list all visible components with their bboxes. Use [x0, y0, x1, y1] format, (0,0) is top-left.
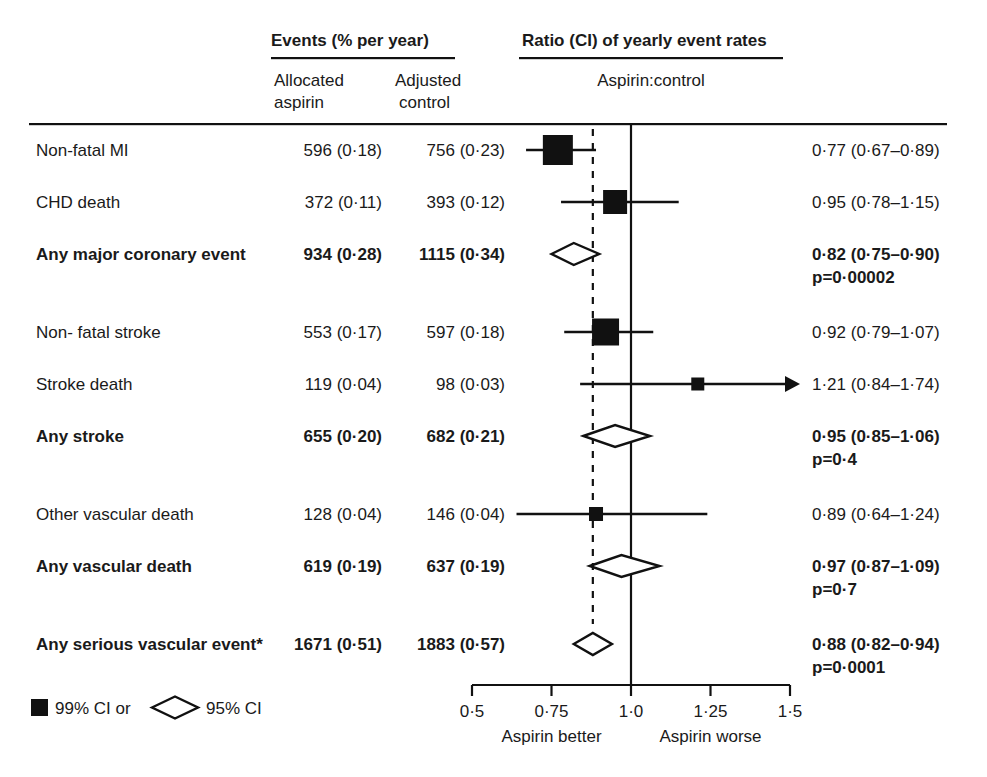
axis-label-left: Aspirin better [501, 727, 601, 746]
row-aspirin-value: 1671 (0·51) [294, 635, 382, 654]
ratio-subheader: Aspirin:control [597, 71, 705, 90]
row-pvalue: p=0·7 [812, 580, 857, 599]
row-ratio-value: 0·88 (0·82–0·94) [812, 635, 940, 654]
row-ratio-value: 0·89 (0·64–1·24) [812, 505, 940, 524]
row-ratio-value: 0·77 (0·67–0·89) [812, 141, 940, 160]
row-control-value: 756 (0·23) [427, 141, 505, 160]
col-control-header-2: control [399, 93, 450, 112]
row-label: Any vascular death [36, 557, 192, 576]
row-label: Stroke death [36, 375, 132, 394]
point-estimate-diamond [574, 633, 612, 655]
row-label: Any major coronary event [36, 245, 246, 264]
row-label: CHD death [36, 193, 120, 212]
axis-tick-label: 1·5 [778, 702, 803, 721]
row-label: Other vascular death [36, 505, 194, 524]
events-header: Events (% per year) [271, 31, 429, 50]
row-pvalue: p=0·00002 [812, 268, 895, 287]
axis-tick-label: 1·25 [693, 702, 727, 721]
axis-tick-label: 0·5 [460, 702, 485, 721]
header-divider [29, 123, 947, 125]
legend-diamond-icon [152, 697, 198, 719]
row-label: Any stroke [36, 427, 124, 446]
row-control-value: 1115 (0·34) [419, 245, 505, 264]
axis-tick-label: 0·75 [534, 702, 568, 721]
point-estimate-square [603, 190, 627, 214]
row-ratio-value: 0·95 (0·85–1·06) [812, 427, 940, 446]
row-ratio-value: 0·82 (0·75–0·90) [812, 245, 940, 264]
row-label: Any serious vascular event* [36, 635, 263, 654]
axis-label-right: Aspirin worse [659, 727, 761, 746]
row-ratio-value: 0·92 (0·79–1·07) [812, 323, 940, 342]
row-aspirin-value: 596 (0·18) [304, 141, 382, 160]
point-estimate-diamond [590, 555, 660, 577]
row-ratio-value: 1·21 (0·84–1·74) [812, 375, 940, 394]
row-aspirin-value: 119 (0·04) [305, 375, 382, 394]
row-aspirin-value: 372 (0·11) [305, 193, 382, 212]
row-control-value: 682 (0·21) [427, 427, 505, 446]
row-ratio-value: 0·95 (0·78–1·15) [812, 193, 940, 212]
col-control-header: Adjusted [395, 71, 461, 90]
row-control-value: 393 (0·12) [427, 193, 505, 212]
row-pvalue: p=0·4 [812, 450, 857, 469]
col-aspirin-header: Allocated [274, 71, 344, 90]
row-control-value: 146 (0·04) [427, 505, 505, 524]
ratio-header: Ratio (CI) of yearly event rates [522, 31, 767, 50]
point-estimate-square [543, 135, 573, 165]
point-estimate-square [592, 319, 619, 346]
row-ratio-value: 0·97 (0·87–1·09) [812, 557, 940, 576]
axis-tick-label: 1·0 [619, 702, 644, 721]
ratio-header-rule [519, 57, 783, 59]
row-aspirin-value: 619 (0·19) [304, 557, 382, 576]
legend-square-label: 99% CI or [55, 699, 131, 718]
row-control-value: 98 (0·03) [436, 375, 505, 394]
point-estimate-square [589, 507, 603, 521]
point-estimate-square [691, 378, 704, 391]
row-label: Non-fatal MI [36, 141, 129, 160]
row-control-value: 637 (0·19) [427, 557, 505, 576]
events-header-rule [271, 57, 455, 59]
row-label: Non- fatal stroke [36, 323, 161, 342]
legend-diamond-label: 95% CI [206, 699, 262, 718]
row-pvalue: p=0·0001 [812, 658, 885, 677]
row-aspirin-value: 655 (0·20) [304, 427, 382, 446]
ci-arrow-icon [785, 376, 800, 392]
row-control-value: 1883 (0·57) [417, 635, 505, 654]
forest-plot: Events (% per year)AllocatedaspirinAdjus… [0, 0, 987, 777]
row-control-value: 597 (0·18) [427, 323, 505, 342]
row-aspirin-value: 553 (0·17) [304, 323, 382, 342]
col-aspirin-header-2: aspirin [274, 93, 324, 112]
legend-square-icon [31, 699, 48, 716]
row-aspirin-value: 128 (0·04) [304, 505, 382, 524]
row-aspirin-value: 934 (0·28) [304, 245, 382, 264]
